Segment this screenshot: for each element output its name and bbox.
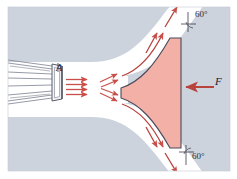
force-label: F [215,76,222,87]
angle-bottom-label: 60° [192,152,205,161]
nozzle-area-label: A [56,63,62,73]
figure-canvas: A F 60° 60° [0,0,237,179]
angle-top-label: 60° [195,10,208,19]
